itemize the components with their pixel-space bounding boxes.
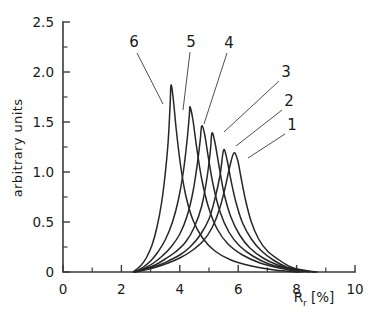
y-axis-title: arbitrary units xyxy=(10,99,25,198)
y-tick-label: 0 xyxy=(45,264,54,280)
y-tick-label: 1.5 xyxy=(33,114,54,130)
leader-line-1 xyxy=(248,134,285,158)
y-tick-label: 2.5 xyxy=(33,14,54,30)
curve-label-5: 5 xyxy=(186,33,196,51)
leader-line-5 xyxy=(183,52,190,110)
y-tick-label: 1.0 xyxy=(33,164,54,180)
x-axis-title: Rr[%] xyxy=(294,289,335,308)
curve-label-2: 2 xyxy=(284,92,294,110)
x-tick-label: 10 xyxy=(346,281,363,297)
curve-label-4: 4 xyxy=(224,34,234,52)
axis-titles: Rr[%]arbitrary units xyxy=(10,99,334,308)
x-tick-label: 4 xyxy=(176,281,185,297)
leader-line-6 xyxy=(137,53,163,104)
curve-label-6: 6 xyxy=(129,33,139,51)
curve-6 xyxy=(133,85,298,272)
leader-line-3 xyxy=(224,81,279,132)
x-tick-label: 0 xyxy=(59,281,68,297)
x-tick-label: 2 xyxy=(117,281,126,297)
y-tick-label: 2.0 xyxy=(33,64,54,80)
chart-figure: 024681000.51.01.52.02.5 123456 Rr[%]arbi… xyxy=(0,0,377,321)
y-tick-label: 0.5 xyxy=(33,214,54,230)
curve-2 xyxy=(135,150,315,272)
curves xyxy=(133,85,317,272)
curve-annotations: 123456 xyxy=(129,33,297,158)
curve-1 xyxy=(135,153,318,272)
curve-label-1: 1 xyxy=(287,116,297,134)
curve-label-3: 3 xyxy=(281,63,291,81)
x-tick-label: 6 xyxy=(234,281,243,297)
leader-line-4 xyxy=(204,53,227,124)
